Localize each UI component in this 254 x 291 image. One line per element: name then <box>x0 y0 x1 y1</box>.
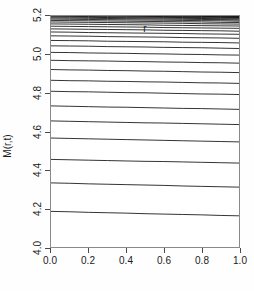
curve-line <box>51 183 239 187</box>
curve-line <box>51 91 239 94</box>
x-tick-label: 0.0 <box>43 255 57 266</box>
curve-line <box>51 46 239 49</box>
x-tick-mark <box>164 248 165 253</box>
curve-line <box>51 36 239 38</box>
plot-panel <box>50 15 240 248</box>
curve-line <box>51 70 239 73</box>
curve-line <box>51 60 239 63</box>
y-axis-title: M(r,t) <box>2 134 13 157</box>
x-axis-title: r <box>143 23 146 34</box>
x-tick-label: 0.6 <box>157 255 171 266</box>
curve-line <box>51 52 239 55</box>
x-tick-mark <box>88 248 89 253</box>
x-tick-mark <box>50 248 51 253</box>
y-tick-label: 4.6 <box>32 125 43 139</box>
curve-line <box>51 138 239 142</box>
curve-line <box>51 211 239 215</box>
curve-line <box>51 40 239 42</box>
x-tick-label: 0.2 <box>81 255 95 266</box>
y-tick-label: 5.2 <box>32 8 43 22</box>
x-axis: 0.00.20.40.60.81.0 <box>0 248 254 291</box>
y-tick-label: 4.8 <box>32 86 43 100</box>
y-tick-label: 4.4 <box>32 163 43 177</box>
y-tick-label: 4.2 <box>32 202 43 216</box>
curve-line <box>51 80 239 83</box>
y-tick-label: 5.0 <box>32 47 43 61</box>
curve-family <box>51 16 239 247</box>
curve-line <box>51 121 239 125</box>
curve-line <box>51 159 239 163</box>
figure-canvas: 4.04.24.44.64.85.05.2 M(r,t) 0.00.20.40.… <box>0 0 254 291</box>
x-tick-mark <box>202 248 203 253</box>
x-tick-mark <box>240 248 241 253</box>
x-tick-label: 0.8 <box>195 255 209 266</box>
x-tick-mark <box>126 248 127 253</box>
x-tick-label: 1.0 <box>233 255 247 266</box>
curve-line <box>51 106 239 109</box>
x-tick-label: 0.4 <box>119 255 133 266</box>
